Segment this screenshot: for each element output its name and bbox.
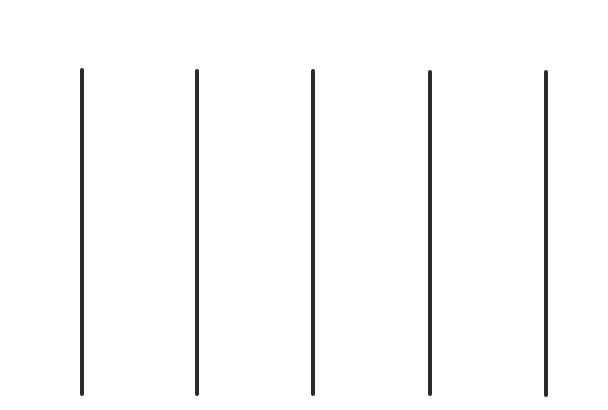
vertical-line-3 [311,69,315,396]
vertical-line-4 [428,70,432,396]
vertical-line-2 [195,69,199,396]
vertical-line-1 [80,68,84,396]
vertical-line-5 [544,70,548,397]
